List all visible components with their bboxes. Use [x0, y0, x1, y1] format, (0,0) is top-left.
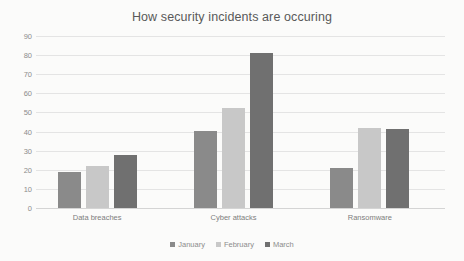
y-axis-tick-label: 30: [6, 146, 32, 155]
y-axis-tick-label: 10: [6, 184, 32, 193]
gridline: [36, 93, 445, 94]
bar-march-ransomware: [386, 129, 409, 208]
gridline: [36, 36, 445, 37]
y-axis-tick-label: 60: [6, 89, 32, 98]
x-axis-category-label: Data breaches: [73, 213, 122, 222]
y-axis-tick-label: 70: [6, 70, 32, 79]
y-axis: 9080706050403020100: [0, 36, 32, 208]
legend-item-march[interactable]: March: [265, 240, 294, 249]
gridline: [36, 55, 445, 56]
x-axis-category-label: Cyber attacks: [211, 213, 257, 222]
bar-february-data-breaches: [86, 166, 109, 208]
bar-march-data-breaches: [114, 155, 137, 209]
legend-item-label: March: [273, 240, 294, 249]
legend-swatch-icon: [216, 242, 221, 247]
bar-january-data-breaches: [58, 172, 81, 208]
legend-swatch-icon: [265, 242, 270, 247]
y-axis-tick-label: 80: [6, 51, 32, 60]
y-axis-tick-label: 0: [6, 204, 32, 213]
legend-item-february[interactable]: February: [216, 240, 254, 249]
bar-january-ransomware: [330, 168, 353, 208]
legend-swatch-icon: [170, 242, 175, 247]
x-axis-category-label: Ransomware: [348, 213, 392, 222]
legend-item-january[interactable]: January: [170, 240, 205, 249]
bar-chart: How security incidents are occuring 9080…: [0, 0, 464, 261]
legend-item-label: January: [178, 240, 205, 249]
bar-february-ransomware: [358, 128, 381, 208]
y-axis-tick-label: 40: [6, 127, 32, 136]
chart-legend: JanuaryFebruaryMarch: [0, 240, 464, 249]
bar-february-cyber-attacks: [222, 108, 245, 208]
y-axis-tick-label: 20: [6, 165, 32, 174]
gridline: [36, 74, 445, 75]
bar-march-cyber-attacks: [250, 53, 273, 208]
plot-area: [36, 36, 445, 208]
legend-item-label: February: [224, 240, 254, 249]
bar-january-cyber-attacks: [194, 131, 217, 208]
y-axis-tick-label: 50: [6, 108, 32, 117]
chart-title: How security incidents are occuring: [0, 10, 464, 24]
y-axis-tick-label: 90: [6, 32, 32, 41]
gridline: [36, 208, 445, 209]
